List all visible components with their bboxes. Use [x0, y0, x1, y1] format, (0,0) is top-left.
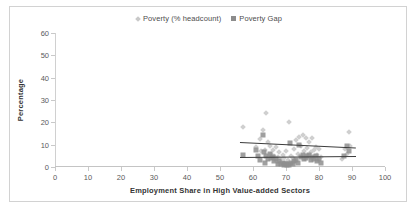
y-tick-label-30: 30: [41, 96, 49, 105]
x-tick-20: [121, 167, 122, 171]
y-tick-label-40: 40: [41, 73, 49, 82]
y-tick-label-0: 0: [45, 163, 49, 172]
x-tick-90: [352, 167, 353, 171]
data-point: [286, 119, 292, 125]
y-tick-label-50: 50: [41, 51, 49, 60]
chart-legend: Poverty (% headcount) Poverty Gap: [0, 14, 418, 23]
x-tick-60: [253, 167, 254, 171]
data-point: [318, 160, 323, 165]
data-point: [346, 130, 352, 136]
y-axis-title: Percentage: [14, 33, 26, 167]
legend-item-poverty-headcount: Poverty (% headcount): [136, 14, 221, 23]
x-tick-label-30: 30: [150, 173, 158, 182]
x-tick-80: [319, 167, 320, 171]
x-tick-label-80: 80: [315, 173, 323, 182]
y-tick-60: [51, 33, 55, 34]
legend-item-poverty-gap: Poverty Gap: [231, 14, 282, 23]
y-tick-10: [51, 145, 55, 146]
x-tick-label-70: 70: [282, 173, 290, 182]
legend-label-poverty-headcount: Poverty (% headcount): [143, 14, 221, 23]
data-point: [263, 110, 269, 116]
data-point: [257, 158, 262, 163]
x-tick-30: [154, 167, 155, 171]
data-point: [260, 132, 265, 137]
x-tick-label-20: 20: [117, 173, 125, 182]
data-point: [295, 160, 300, 165]
legend-label-poverty-gap: Poverty Gap: [239, 14, 282, 23]
y-tick-40: [51, 78, 55, 79]
data-point: [316, 146, 322, 152]
x-tick-100: [385, 167, 386, 171]
square-marker-icon: [231, 16, 236, 21]
y-tick-label-10: 10: [41, 140, 49, 149]
x-tick-label-50: 50: [216, 173, 224, 182]
diamond-marker-icon: [135, 16, 141, 22]
chart-figure: Poverty (% headcount) Poverty Gap Percen…: [0, 0, 418, 215]
y-tick-20: [51, 122, 55, 123]
x-tick-50: [220, 167, 221, 171]
x-tick-label-40: 40: [183, 173, 191, 182]
x-tick-label-60: 60: [249, 173, 257, 182]
y-axis-line: [55, 33, 56, 167]
x-tick-label-10: 10: [84, 173, 92, 182]
plot-area: 0102030405060 0102030405060708090100: [55, 33, 385, 167]
x-tick-40: [187, 167, 188, 171]
data-point: [254, 148, 259, 153]
x-axis-title: Employment Share in High Value-added Sec…: [55, 186, 385, 195]
x-tick-label-0: 0: [53, 173, 57, 182]
x-tick-0: [55, 167, 56, 171]
y-tick-label-20: 20: [41, 118, 49, 127]
y-tick-label-60: 60: [41, 29, 49, 38]
x-tick-label-90: 90: [348, 173, 356, 182]
data-point: [346, 149, 351, 154]
x-tick-label-100: 100: [379, 173, 392, 182]
y-tick-30: [51, 100, 55, 101]
x-tick-10: [88, 167, 89, 171]
data-point: [240, 124, 246, 130]
data-point: [310, 135, 316, 141]
y-tick-50: [51, 55, 55, 56]
